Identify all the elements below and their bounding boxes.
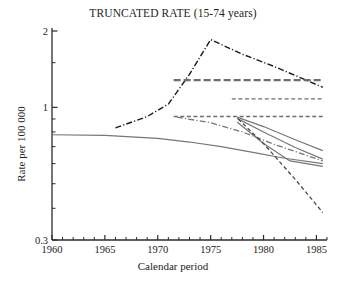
series-projection-lower-solid	[237, 118, 323, 159]
svg-text:1965: 1965	[94, 244, 115, 255]
chart-plot-area: 1960196519701975198019850.312	[0, 0, 346, 286]
y-axis-label: Rate per 100 000	[15, 79, 27, 209]
series-observed-rate	[115, 40, 322, 128]
svg-text:1975: 1975	[200, 244, 221, 255]
series-projection-flattening-solid	[237, 122, 323, 166]
x-axis-label: Calendar period	[0, 260, 346, 272]
svg-text:0.3: 0.3	[35, 235, 48, 246]
svg-text:1980: 1980	[253, 244, 274, 255]
svg-text:1960: 1960	[42, 244, 63, 255]
svg-text:1: 1	[43, 102, 48, 113]
series-baseline-cohort-curve	[52, 135, 323, 164]
svg-text:1985: 1985	[306, 244, 327, 255]
svg-text:2: 2	[43, 26, 48, 37]
series-projection-dash-dot-gray	[177, 117, 323, 161]
svg-text:1970: 1970	[147, 244, 168, 255]
chart-figure: TRUNCATED RATE (15-74 years) 19601965197…	[0, 0, 346, 286]
